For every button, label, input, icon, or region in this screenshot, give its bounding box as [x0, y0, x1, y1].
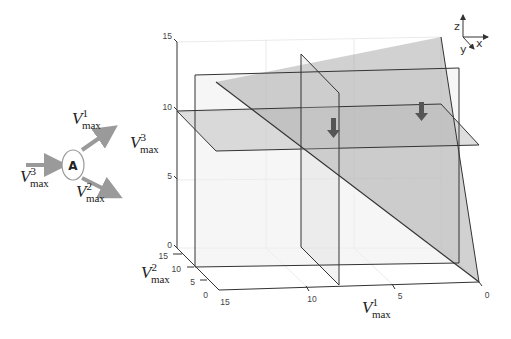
- y-axis-label: V2max: [141, 261, 170, 285]
- input-label: V3max: [20, 165, 49, 189]
- flux-space-diagram: A V1max V3max V2max: [0, 0, 511, 339]
- y-tick-15: 15: [159, 251, 169, 261]
- x-tick-15: 15: [220, 297, 230, 307]
- node-label: A: [68, 159, 78, 173]
- reaction-node-schematic: A V1max V3max V2max: [20, 107, 112, 204]
- triad-y-label: y: [460, 43, 467, 56]
- y-tick-5: 5: [190, 277, 195, 287]
- vertical-plane: [301, 54, 339, 285]
- x-tick-10: 10: [307, 294, 317, 304]
- z-tick-0: 0: [167, 240, 172, 250]
- z-tick-10: 10: [163, 102, 173, 112]
- triad-x-label: x: [476, 37, 483, 50]
- y-tick-10: 10: [172, 264, 182, 274]
- plot-3d: 15 10 5 0 15 10 5 0 15 10 5 0 V3max V2ma…: [130, 31, 490, 320]
- triad-z-label: z: [454, 20, 460, 33]
- z-axis-label: V3max: [130, 131, 159, 155]
- x-axis: [219, 282, 479, 290]
- z-tick-15: 15: [163, 31, 173, 41]
- output-arrow-1-icon: [82, 132, 108, 150]
- x-tick-5: 5: [398, 291, 403, 301]
- output-1-label: V1max: [72, 107, 101, 131]
- x-axis-label: V1max: [362, 296, 391, 320]
- y-tick-0: 0: [203, 290, 208, 300]
- x-tick-0: 0: [485, 290, 490, 300]
- z-tick-5: 5: [167, 171, 172, 181]
- output-2-label: V2max: [76, 180, 105, 204]
